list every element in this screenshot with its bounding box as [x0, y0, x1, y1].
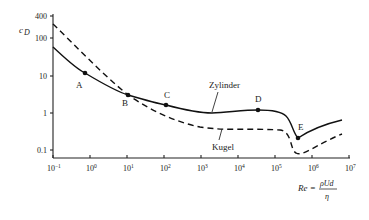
svg-text:c: c: [19, 25, 23, 35]
svg-text:η: η: [325, 192, 329, 201]
point-e: [296, 136, 301, 141]
y-axis-label: c D: [19, 25, 30, 37]
svg-text:101: 101: [123, 163, 134, 173]
svg-text:107: 107: [345, 163, 356, 173]
x-axis-label: Re = ρUd η: [297, 179, 337, 201]
svg-text:100: 100: [35, 34, 47, 43]
svg-text:106: 106: [308, 163, 319, 173]
x-tick-labels: 10−1 100 101 102 103 104 105 106 107: [47, 163, 356, 173]
svg-text:ρUd: ρUd: [319, 179, 335, 188]
point-b: [126, 93, 131, 98]
svg-text:10−1: 10−1: [47, 163, 61, 173]
point-a: [83, 71, 88, 76]
svg-text:B: B: [122, 98, 128, 108]
svg-text:D: D: [255, 94, 262, 104]
drag-coefficient-chart: 400 100 10 1 0.1 c D 10−1 100 101 102 10…: [0, 0, 369, 220]
kugel-curve: [53, 24, 342, 154]
svg-text:105: 105: [271, 163, 282, 173]
svg-text:C: C: [164, 90, 170, 100]
svg-text:400: 400: [35, 12, 47, 21]
svg-text:10: 10: [39, 72, 47, 81]
svg-text:1: 1: [43, 109, 47, 118]
svg-text:104: 104: [234, 163, 245, 173]
series-annotations: Zylinder Kugel: [209, 80, 240, 152]
y-tick-labels: 400 100 10 1 0.1: [35, 12, 47, 155]
svg-text:Kugel: Kugel: [212, 142, 234, 152]
axes: [50, 14, 350, 158]
svg-text:102: 102: [160, 163, 171, 173]
point-c: [164, 103, 169, 108]
svg-text:A: A: [76, 80, 83, 90]
svg-text:Zylinder: Zylinder: [209, 80, 240, 90]
svg-text:Re =: Re =: [297, 183, 316, 193]
point-d: [256, 108, 261, 113]
svg-text:E: E: [298, 122, 304, 132]
svg-text:103: 103: [197, 163, 208, 173]
svg-text:D: D: [23, 28, 30, 37]
svg-text:0.1: 0.1: [37, 146, 47, 155]
svg-text:100: 100: [86, 163, 97, 173]
